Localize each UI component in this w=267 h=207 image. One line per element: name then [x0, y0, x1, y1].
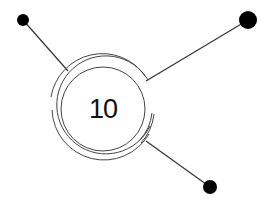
center-number: 10: [63, 89, 143, 129]
connector-top-right: [146, 20, 248, 81]
satellite-dot-top-right: [239, 11, 257, 29]
diagram-canvas: 10: [0, 0, 267, 207]
connector-top-left: [23, 20, 68, 71]
satellite-dot-bottom-right: [203, 180, 217, 194]
satellite-dot-top-left: [17, 14, 29, 26]
connector-bottom-right: [146, 141, 210, 187]
